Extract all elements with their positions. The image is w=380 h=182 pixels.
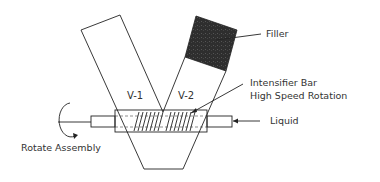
intensifier-arrow-icon — [191, 108, 197, 113]
intensifier-bar — [91, 110, 232, 132]
filler-block — [185, 16, 237, 71]
helix-blades — [134, 112, 195, 131]
label-liquid: Liquid — [270, 115, 299, 126]
liquid-arrow-icon — [233, 119, 238, 124]
label-v1: V-1 — [127, 90, 143, 101]
label-v2: V-2 — [178, 90, 194, 101]
rotate-arrow-icon — [73, 133, 78, 139]
label-high-speed-rotation: High Speed Rotation — [250, 90, 347, 101]
label-filler: Filler — [266, 28, 289, 39]
v-blender-diagram: V-1 V-2 Filler Intensifier Bar High Spee… — [0, 0, 380, 182]
label-intensifier-bar: Intensifier Bar — [250, 77, 317, 88]
intensifier-leader — [191, 84, 243, 113]
label-rotate-assembly: Rotate Assembly — [21, 142, 101, 153]
rotate-assembly — [58, 103, 91, 139]
